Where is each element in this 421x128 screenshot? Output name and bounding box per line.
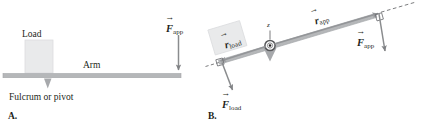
- load-block: [25, 40, 53, 73]
- figure-canvas: [0, 0, 421, 128]
- vector-arrow-accent-icon: →: [165, 13, 174, 22]
- force-load-subscript: load: [229, 104, 241, 112]
- lever-axis-dashed-right: [381, 2, 416, 12]
- force-applied-subscript-a: app: [173, 28, 183, 36]
- arm-label: Arm: [83, 61, 100, 71]
- force-applied-label-b: → F app: [357, 33, 374, 50]
- force-applied-subscript-b: app: [364, 42, 374, 50]
- pivot-center-dot: [269, 44, 272, 47]
- vector-arrow-accent-icon: →: [356, 27, 365, 36]
- force-load-label: → F load: [222, 95, 241, 112]
- force-load-symbol: → F: [222, 95, 229, 111]
- figure-root: Load Arm Fulcrum or pivot → F app A. z →…: [0, 0, 421, 128]
- fulcrum-triangle: [44, 79, 52, 89]
- force-applied-label-a: → F app: [166, 19, 183, 36]
- force-applied-symbol-b: → F: [357, 33, 364, 49]
- z-axis-label: z: [267, 22, 270, 29]
- lever-arm-bar: [3, 74, 181, 78]
- force-applied-symbol-a: → F: [166, 19, 173, 35]
- vector-arrow-accent-icon: →: [221, 89, 230, 98]
- force-load-arrow: [222, 63, 233, 91]
- load-label-a: Load: [22, 30, 42, 40]
- fulcrum-label: Fulcrum or pivot: [9, 93, 73, 103]
- panel-letter-a: A.: [8, 112, 17, 122]
- panel-letter-b: B.: [208, 112, 217, 122]
